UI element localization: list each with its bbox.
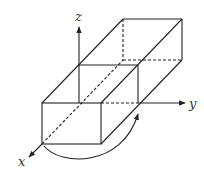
mid-section [79,65,138,103]
back-edges [42,19,182,144]
x-axis [29,144,42,157]
front-face [42,103,101,144]
x-axis-label: x [18,154,26,169]
prism-axes-diagram: z y x [0,0,204,171]
z-axis-label: z [74,9,82,24]
y-axis-label: y [188,96,197,111]
